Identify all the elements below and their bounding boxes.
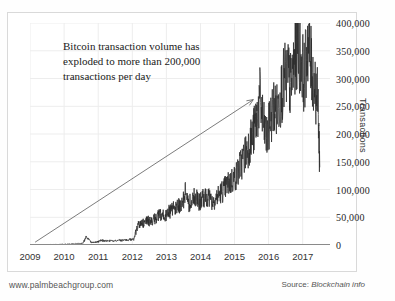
y-axis-title: Transactions <box>358 98 368 153</box>
x-axis-tick-label: 2012 <box>122 251 143 262</box>
chart-screenshot: 050,000100,000150,000200,000250,000300,0… <box>0 0 395 301</box>
footer-website: www.palmbeachgroup.com <box>9 280 113 290</box>
source-name-label: Blockchain info <box>311 280 365 289</box>
source-prefix-label: Source: <box>281 280 309 289</box>
x-axis-tick-label: 2017 <box>292 251 313 262</box>
x-axis-tick-label: 2014 <box>190 251 211 262</box>
footer-source: Source: Blockchain info <box>281 280 365 289</box>
x-axis-tick-label: 2016 <box>258 251 279 262</box>
y-axis-tick-label: 350,000 <box>336 45 390 56</box>
annotation-line-2: exploded to more than 200,000 <box>63 54 253 69</box>
chart-frame: 050,000100,000150,000200,000250,000300,0… <box>7 12 357 272</box>
y-axis-tick-label: 400,000 <box>336 18 390 29</box>
y-axis-tick-label: 0 <box>336 240 390 251</box>
annotation-line-3: transactions per day <box>63 69 253 84</box>
x-axis-tick-label: 2011 <box>88 251 108 262</box>
x-axis-tick-labels: 200920102011201220132014201520162017 <box>30 251 330 269</box>
y-axis-tick-label: 300,000 <box>336 73 390 84</box>
annotation-line-1: Bitcoin transaction volume has <box>63 39 253 54</box>
x-axis-line <box>30 244 330 245</box>
y-axis-tick-label: 150,000 <box>336 156 390 167</box>
x-axis-tick-label: 2013 <box>156 251 177 262</box>
x-axis-tick-label: 2015 <box>224 251 245 262</box>
x-axis-tick-label: 2010 <box>54 251 75 262</box>
y-axis-tick-label: 100,000 <box>336 184 390 195</box>
chart-annotation-text: Bitcoin transaction volume has exploded … <box>63 39 253 84</box>
x-axis-tick-label: 2009 <box>19 251 40 262</box>
y-axis-tick-label: 50,000 <box>336 212 390 223</box>
